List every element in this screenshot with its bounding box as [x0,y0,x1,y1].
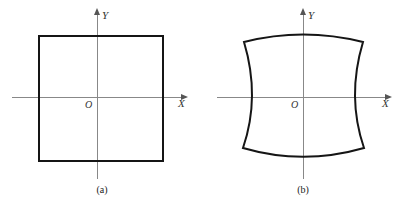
panel-b-y-axis-label: Y [308,9,316,21]
figure-container: X Y O (a) X Y O (b) [0,0,399,203]
panel-a-square-outline [39,36,163,161]
figure-svg: X Y O (a) X Y O (b) [0,0,399,203]
panel-b-origin-label: O [291,99,298,110]
panel-a-y-axis-arrowhead [94,8,100,15]
panel-b-y-axis-arrowhead [300,8,306,15]
panel-a-caption: (a) [96,184,107,196]
panel-b-caption: (b) [297,184,309,196]
panel-a: X Y O (a) [12,8,188,196]
panel-a-x-axis-label: X [177,97,186,109]
panel-b-x-axis-label: X [381,97,390,109]
panel-b: X Y O (b) [217,8,392,196]
panel-a-origin-label: O [85,99,92,110]
panel-a-y-axis-label: Y [102,9,110,21]
